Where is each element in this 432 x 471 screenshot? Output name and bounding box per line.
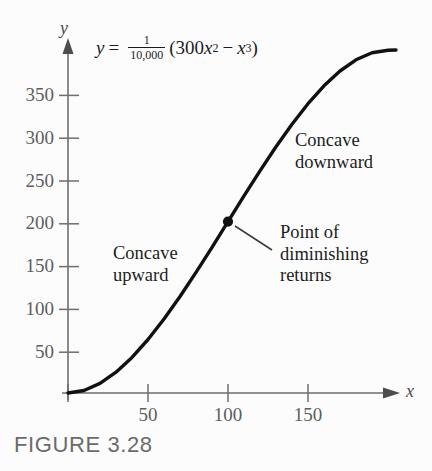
- x-axis-arrowhead: [383, 388, 400, 399]
- annotation-concave-downward-line1: Concave: [295, 130, 373, 152]
- x-tick-label-100: 100: [198, 404, 258, 425]
- equation-fraction: 1 10,000: [128, 34, 165, 61]
- equation-var-1: x: [204, 37, 212, 59]
- y-axis-label: y: [60, 18, 68, 38]
- y-axis-ticks: [59, 95, 79, 352]
- y-tick-label-250: 250: [0, 170, 54, 191]
- y-tick-label-150: 150: [0, 255, 54, 276]
- annotation-pdr-line1: Point of: [280, 222, 368, 244]
- leader-line-diminishing-returns: [235, 226, 272, 250]
- equation-lhs: y: [96, 37, 104, 59]
- equation-coefficient: 300: [175, 37, 204, 59]
- y-tick-label-200: 200: [0, 212, 54, 233]
- x-tick-label-50: 50: [118, 404, 178, 425]
- annotation-point-of-diminishing-returns: Point of diminishing returns: [280, 222, 368, 287]
- x-axis-label: x: [406, 381, 414, 401]
- annotation-concave-downward: Concave downward: [295, 130, 373, 173]
- annotation-concave-upward: Concave upward: [113, 243, 178, 286]
- y-tick-label-100: 100: [0, 298, 54, 319]
- figure-caption: FIGURE 3.28: [14, 433, 153, 458]
- annotation-concave-upward-line1: Concave: [113, 243, 178, 265]
- annotation-pdr-line2: diminishing: [280, 244, 368, 266]
- fraction-denominator: 10,000: [128, 48, 165, 61]
- annotation-concave-downward-line2: downward: [295, 152, 373, 174]
- y-tick-label-50: 50: [0, 341, 54, 362]
- y-tick-label-300: 300: [0, 127, 54, 148]
- equation-close-paren: ): [252, 37, 258, 59]
- annotation-pdr-line3: returns: [280, 265, 368, 287]
- fraction-numerator: 1: [141, 34, 153, 47]
- x-tick-label-150: 150: [278, 404, 338, 425]
- annotation-concave-upward-line2: upward: [113, 265, 178, 287]
- equation-minus: −: [222, 37, 233, 59]
- equation-equals: =: [108, 37, 119, 59]
- equation-label: y = 1 10,000 ( 300 x 2 − x 3 ): [96, 34, 258, 61]
- y-tick-label-350: 350: [0, 84, 54, 105]
- figure-container: y = 1 10,000 ( 300 x 2 − x 3 ) y x 350 3…: [0, 0, 432, 471]
- y-axis-arrowhead: [63, 38, 74, 54]
- inflection-point-marker: [223, 217, 233, 227]
- equation-var-2: x: [237, 37, 245, 59]
